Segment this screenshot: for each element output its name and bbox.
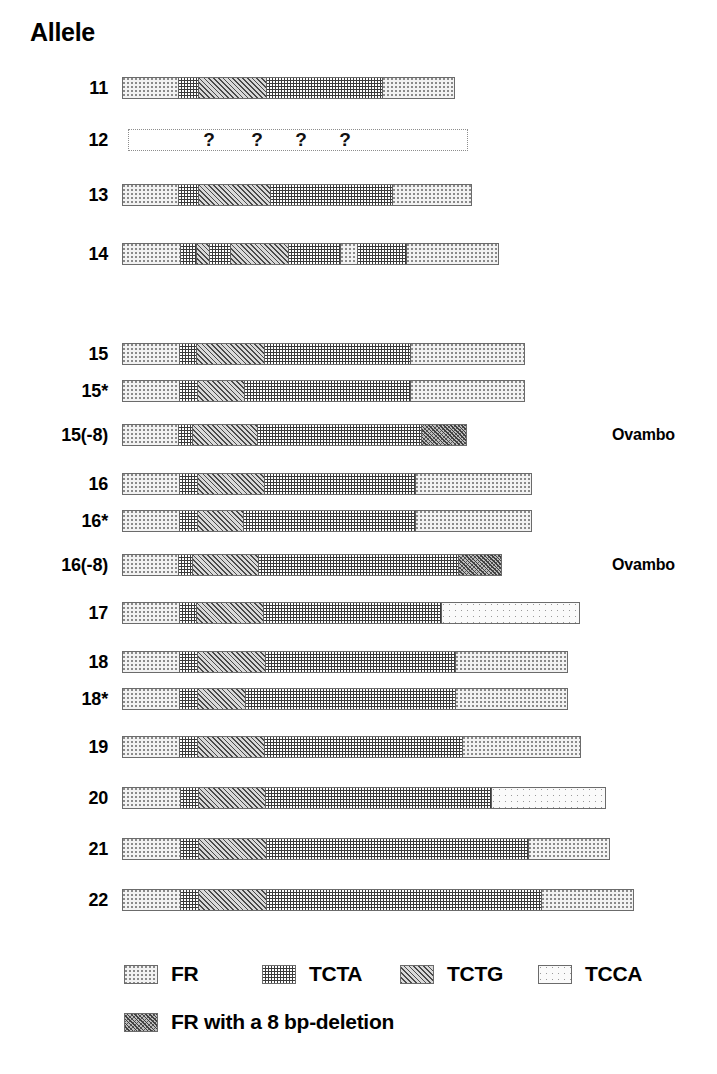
allele-label-17: 17 [0,603,108,624]
segment-tctg [197,511,243,531]
allele-bar [122,184,472,206]
segment-tcta [180,244,196,264]
segment-del [421,425,467,445]
unknown-structure-marks: ???? [129,130,467,150]
segment-fr [123,603,179,623]
segment-fr [415,474,532,494]
segment-tctg [198,185,270,205]
legend-item-fr: FR [124,960,198,988]
segment-fr [392,185,472,205]
segment-tcta [266,78,382,98]
question-mark: ? [339,129,351,151]
segment-tcta [257,425,421,445]
legend-item-tcta: TCTA [262,960,362,988]
segment-fr [123,511,179,531]
allele-structure-figure: Allele 1112????13141515*15(-8)Ovambo1616… [0,0,717,1074]
segment-tcta [179,652,197,672]
question-mark: ? [203,129,215,151]
segment-tctg [198,78,266,98]
segment-fr [123,185,178,205]
allele-bar [122,688,568,710]
segment-fr [123,839,180,859]
segment-fr [340,244,357,264]
segment-tctg [230,244,288,264]
population-note: Ovambo [612,426,675,444]
segment-fr [406,244,499,264]
population-note: Ovambo [612,556,675,574]
allele-label-19: 19 [0,737,108,758]
segment-tcta [243,511,415,531]
segment-fr [123,381,179,401]
allele-bar [122,473,532,495]
segment-tcta [265,652,455,672]
legend-label: FR [171,962,198,986]
segment-tcta [180,839,198,859]
segment-tcta [265,788,491,808]
segment-fr [410,381,525,401]
allele-label-11: 11 [0,78,108,99]
segment-tctg [196,244,209,264]
legend-swatch-tcta-icon [262,965,296,984]
legend-item-tctg: TCTG [400,960,503,988]
allele-bar [122,602,580,624]
legend-swatch-fr-icon [124,965,158,984]
legend-row: FR with a 8 bp-deletion [0,1008,717,1036]
allele-label-15: 15 [0,344,108,365]
segment-fr [123,890,180,910]
segment-fr [382,78,455,98]
segment-tcta [258,555,458,575]
allele-bar [122,510,532,532]
segment-tcta [244,381,410,401]
allele-bar [122,424,467,446]
segment-tctg [192,555,258,575]
segment-tcca [491,788,606,808]
allele-bar [122,243,499,265]
legend-swatch-del-icon [124,1013,158,1032]
segment-tctg [198,839,266,859]
segment-tctg [196,603,263,623]
segment-fr [123,652,179,672]
allele-label-16: 16* [0,511,108,532]
allele-bar [122,889,634,911]
segment-fr [410,344,525,364]
allele-label-22: 22 [0,890,108,911]
segment-tcta [288,244,340,264]
question-mark: ? [295,129,307,151]
allele-label-16: 16 [0,474,108,495]
segment-fr [415,511,532,531]
segment-tcta [180,890,198,910]
segment-tcta [178,78,198,98]
segment-tcta [179,603,196,623]
segment-fr [123,737,179,757]
segment-tctg [196,344,264,364]
segment-tcta [357,244,406,264]
segment-fr [455,652,568,672]
segment-tctg [197,652,265,672]
allele-label-15: 15* [0,381,108,402]
legend-label: TCCA [585,962,642,986]
segment-tcta [209,244,230,264]
segment-fr [455,689,568,709]
segment-tcta [178,425,192,445]
segment-tcta [179,381,197,401]
segment-fr [541,890,634,910]
allele-bar [122,554,502,576]
legend-item-del: FR with a 8 bp-deletion [124,1008,394,1036]
question-mark: ? [251,129,263,151]
allele-label-18: 18* [0,689,108,710]
segment-tcta [245,689,455,709]
segment-tcta [270,185,392,205]
segment-fr [123,689,179,709]
segment-fr [123,244,180,264]
segment-fr [123,555,178,575]
segment-fr [123,78,178,98]
allele-bar [122,343,525,365]
segment-tctg [192,425,257,445]
legend-swatch-tcca-icon [538,965,572,984]
segment-fr [123,788,180,808]
segment-tcta [266,890,541,910]
segment-tctg [198,890,266,910]
segment-tcta [179,474,197,494]
legend-label: FR with a 8 bp-deletion [171,1010,394,1034]
segment-tctg [197,689,245,709]
